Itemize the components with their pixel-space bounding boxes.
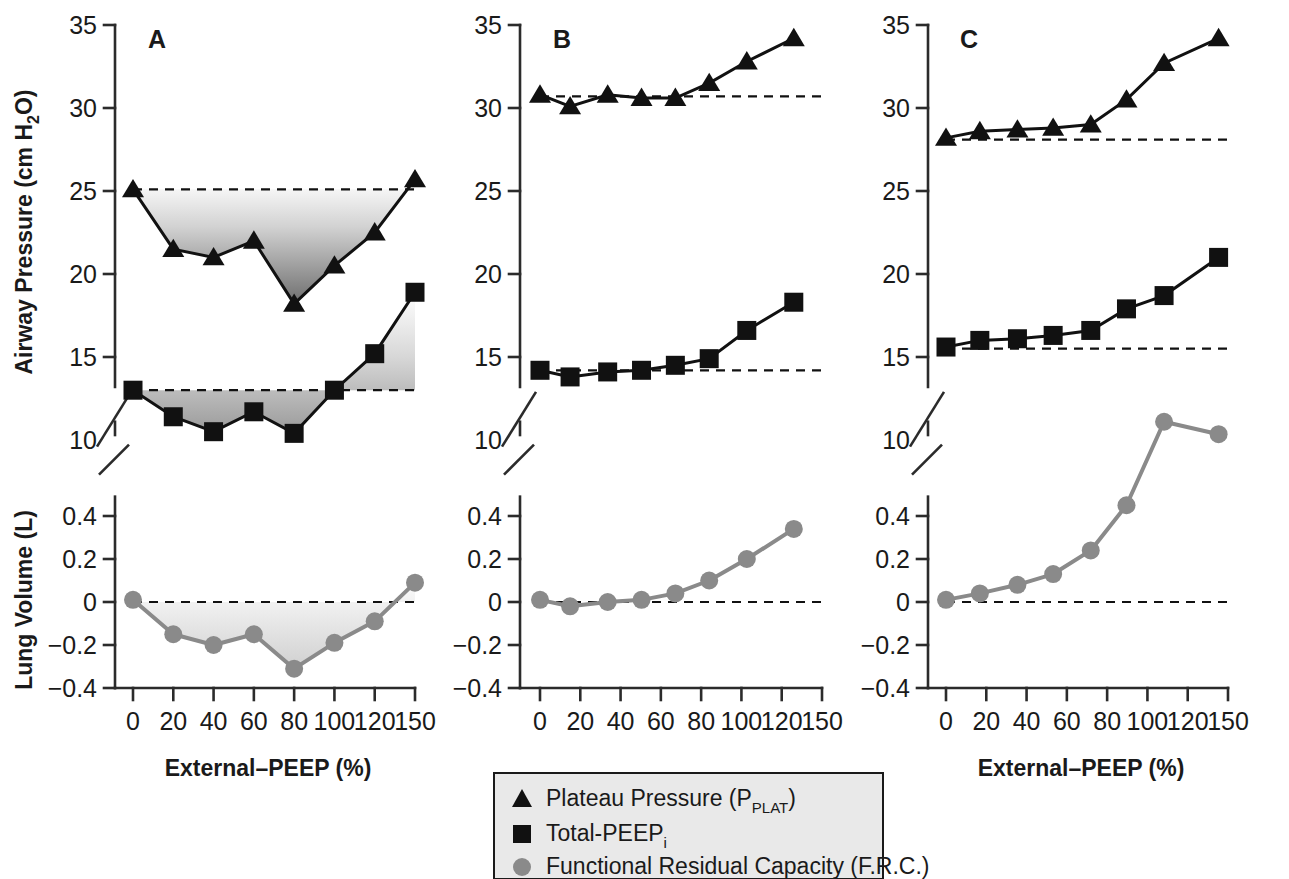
pressure-tick-label: 10 [882,426,910,454]
pressure-tick-label: 15 [882,343,910,371]
square-marker [204,422,223,441]
pressure-axis-b [502,25,536,447]
square-marker [737,321,756,340]
axis-break-mark [99,445,129,475]
x-tick-label: 150 [1207,707,1249,735]
legend-label: Functional Residual Capacity (F.R.C.) [546,853,929,879]
triangle-marker [1153,53,1175,71]
circle-marker [245,625,263,643]
volume-tick-label: 0.4 [875,502,910,530]
circle-marker [785,520,803,538]
y-axis-title-volume: Lung Volume (L) [11,510,37,690]
pressure-tick-label: 25 [69,177,97,205]
legend-item-2[interactable]: Functional Residual Capacity (F.R.C.) [513,853,929,879]
panel-label-a: A [148,25,166,53]
panel-label-b: B [553,25,571,53]
volume-axis-b [504,445,822,700]
square-marker [700,349,719,368]
axis-break-mark [97,392,131,447]
circle-marker [1044,565,1062,583]
x-tick-label: 0 [533,707,547,735]
x-tick-label: 120 [1167,707,1209,735]
volume-axis-c [912,445,1228,700]
square-marker [1209,248,1228,267]
panel-label-c: C [960,25,978,53]
x-tick-label: 120 [761,707,803,735]
circle-marker [1082,541,1100,559]
circle-marker [205,636,223,654]
pressure-tick-label: 30 [882,94,910,122]
volume-tick-label: −0.4 [48,674,97,702]
circle-marker [738,550,756,568]
volume-tick-label: 0 [83,588,97,616]
circle-marker [1155,413,1173,431]
x-tick-label: 100 [721,707,763,735]
triangle-marker [1208,28,1230,46]
circle-marker [561,597,579,615]
pressure-tick-label: 35 [882,11,910,39]
triangle-marker [698,73,720,91]
square-marker [937,338,956,357]
x-tick-label: 20 [159,707,187,735]
x-tick-label: 80 [1093,707,1121,735]
triangle-marker [404,169,426,187]
square-marker [1081,321,1100,340]
triangle-marker [736,51,758,69]
pressure-tick-label: 25 [882,177,910,205]
x-tick-label: 100 [1127,707,1169,735]
pressure-tick-label: 30 [474,94,502,122]
volume-tick-label: 0.4 [467,502,502,530]
triangle-marker [1080,114,1102,132]
pressure-tick-label: 30 [69,94,97,122]
data-line [946,38,1219,138]
square-marker [784,293,803,312]
volume-tick-label: 0.2 [467,545,502,573]
triangle-marker [597,84,619,102]
circle-marker [971,584,989,602]
x-tick-label: 80 [280,707,308,735]
x-axis-title: External–PEEP (%) [165,755,372,781]
volume-tick-label: 0 [488,588,502,616]
volume-tick-label: −0.4 [453,674,502,702]
square-marker [666,356,685,375]
square-marker [1044,326,1063,345]
volume-tick-label: −0.2 [48,631,97,659]
x-tick-label: 120 [354,707,396,735]
pressure-tick-label: 10 [474,426,502,454]
figure-canvas: 353025201510A0.40.20−0.2−0.4020406080100… [0,0,1289,879]
square-marker [632,361,651,380]
series-frc-b [531,520,803,615]
circle-marker [633,591,651,609]
volume-tick-label: 0 [896,588,910,616]
pressure-tick-label: 35 [474,11,502,39]
circle-marker [666,584,684,602]
circle-marker [1117,496,1135,514]
square-marker [124,381,143,400]
x-tick-label: 40 [1013,707,1041,735]
square-marker [285,424,304,443]
circle-marker [531,591,549,609]
x-tick-label: 40 [200,707,228,735]
axis-break-mark [502,392,536,447]
panel-b [502,25,822,700]
x-tick-label: 60 [1053,707,1081,735]
square-marker [598,362,617,381]
x-tick-label: 20 [566,707,594,735]
data-line [946,422,1219,600]
triangle-marker [783,28,805,46]
volume-tick-label: −0.2 [861,631,910,659]
circle-marker [406,574,424,592]
square-marker [1155,286,1174,305]
series-plateau-pressure-c [935,28,1230,146]
triangle-marker [122,179,144,197]
square-marker [1117,299,1136,318]
x-axis-title: External–PEEP (%) [978,755,1185,781]
panel-c [910,25,1230,700]
square-marker [365,344,384,363]
pressure-tick-label: 20 [474,260,502,288]
volume-tick-label: 0.2 [62,545,97,573]
x-tick-label: 80 [687,707,715,735]
square-marker [244,402,263,421]
x-tick-label: 60 [647,707,675,735]
series-frc-c [937,413,1228,609]
